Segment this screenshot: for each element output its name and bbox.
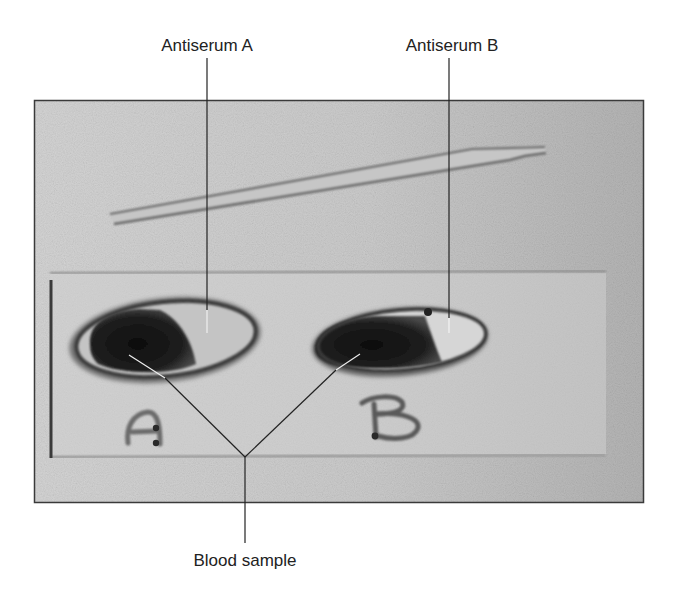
label-blood-sample: Blood sample: [193, 551, 296, 571]
label-antiserum-b: Antiserum B: [406, 36, 499, 56]
label-antiserum-a: Antiserum A: [161, 36, 253, 56]
handwritten-mark-b-dot: [372, 433, 379, 440]
slide-photo-illustration: [0, 0, 673, 592]
